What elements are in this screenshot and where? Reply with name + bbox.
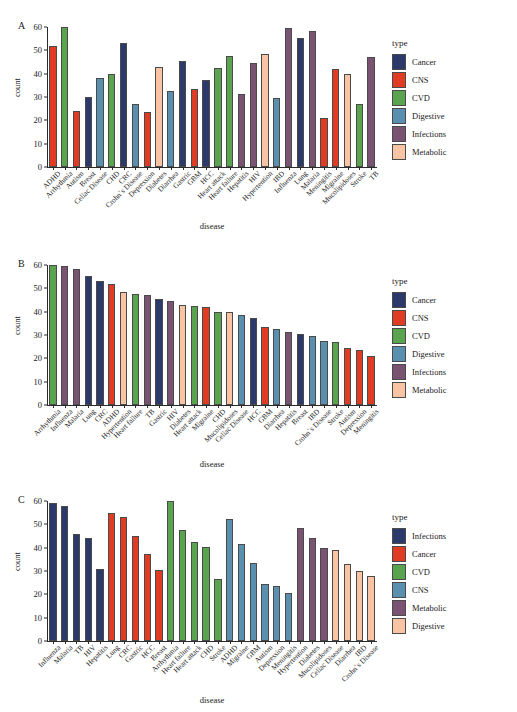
bar bbox=[96, 78, 103, 167]
legend-label: CNS bbox=[412, 75, 429, 85]
legend-swatch bbox=[392, 292, 406, 308]
bar bbox=[285, 332, 292, 406]
legend-swatch bbox=[392, 54, 406, 70]
bar bbox=[167, 501, 174, 641]
legend-label: Cancer bbox=[412, 57, 436, 67]
plot-area-c: 0102030405060 bbox=[47, 501, 377, 641]
bar bbox=[238, 315, 245, 405]
bar bbox=[332, 69, 339, 167]
panel-b: B count 0102030405060 ArrhythmiaInfluenz… bbox=[0, 238, 517, 475]
bar bbox=[120, 292, 127, 405]
bar bbox=[85, 97, 92, 167]
bar bbox=[144, 112, 151, 167]
legend-label: Infections bbox=[412, 129, 446, 139]
bar bbox=[132, 104, 139, 167]
bar bbox=[273, 98, 280, 167]
legend-item: Digestive bbox=[392, 345, 512, 363]
legend-swatch bbox=[392, 328, 406, 344]
legend-item: CNS bbox=[392, 581, 512, 599]
legend-items-b: CancerCNSCVDDigestiveInfectionsMetabolic bbox=[392, 291, 512, 399]
bar bbox=[179, 530, 186, 641]
panel-a: A count 0102030405060 ADHDArrhythmiaAuti… bbox=[0, 0, 517, 237]
bar bbox=[214, 579, 221, 641]
legend-label: Cancer bbox=[412, 295, 436, 305]
x-tick-labels-b: ArrhythmiaInfluenzaMalariaLungCRCADHDHyp… bbox=[47, 407, 377, 459]
x-axis-line-a bbox=[47, 167, 377, 168]
bar bbox=[356, 104, 363, 167]
legend-title-c: type bbox=[392, 512, 512, 522]
bar bbox=[49, 503, 56, 641]
y-axis-label-a: count bbox=[12, 78, 22, 97]
bar bbox=[214, 312, 221, 405]
bar bbox=[108, 284, 115, 405]
bar bbox=[120, 43, 127, 167]
x-axis-line-b bbox=[47, 405, 377, 406]
bar bbox=[250, 318, 257, 406]
bar bbox=[61, 266, 68, 405]
bar bbox=[273, 329, 280, 405]
bar bbox=[191, 89, 198, 167]
bar bbox=[297, 334, 304, 405]
bar bbox=[155, 570, 162, 641]
bar bbox=[309, 336, 316, 405]
legend-swatch bbox=[392, 618, 406, 634]
legend-swatch bbox=[392, 108, 406, 124]
legend-swatch bbox=[392, 546, 406, 562]
bar bbox=[167, 91, 174, 167]
legend-items-c: InfectionsCancerCVDCNSMetabolicDigestive bbox=[392, 527, 512, 635]
legend-item: Cancer bbox=[392, 545, 512, 563]
bar bbox=[179, 61, 186, 167]
legend-item: Digestive bbox=[392, 107, 512, 125]
figure-root: A count 0102030405060 ADHDArrhythmiaAuti… bbox=[0, 0, 517, 712]
bar bbox=[179, 305, 186, 405]
bar bbox=[320, 118, 327, 167]
bar bbox=[320, 341, 327, 405]
legend-label: Metabolic bbox=[412, 147, 446, 157]
legend-label: Infections bbox=[412, 531, 446, 541]
bar bbox=[261, 584, 268, 641]
bar bbox=[202, 547, 209, 642]
bar bbox=[167, 301, 174, 405]
panel-letter-a: A bbox=[18, 20, 26, 31]
legend-item: Cancer bbox=[392, 291, 512, 309]
bar bbox=[226, 56, 233, 167]
legend-c: type InfectionsCancerCVDCNSMetabolicDige… bbox=[392, 512, 512, 635]
legend-swatch bbox=[392, 72, 406, 88]
legend-swatch bbox=[392, 564, 406, 580]
bars-b bbox=[47, 265, 377, 405]
legend-item: CVD bbox=[392, 327, 512, 345]
bar bbox=[285, 593, 292, 641]
bar bbox=[61, 27, 68, 167]
bar bbox=[344, 74, 351, 167]
panel-letter-c: C bbox=[18, 494, 25, 505]
panel-c: C count 0102030405060 InfluenzaMalariaTB… bbox=[0, 474, 517, 711]
y-axis-label-b: count bbox=[12, 316, 22, 335]
bar bbox=[356, 571, 363, 641]
bar bbox=[367, 576, 374, 641]
plot-area-b: 0102030405060 bbox=[47, 265, 377, 405]
bar bbox=[226, 312, 233, 405]
bar bbox=[155, 67, 162, 167]
bar bbox=[238, 94, 245, 168]
legend-label: Cancer bbox=[412, 549, 436, 559]
bar bbox=[61, 506, 68, 641]
bar bbox=[73, 534, 80, 641]
bar bbox=[261, 54, 268, 167]
bar bbox=[297, 38, 304, 168]
bar bbox=[191, 306, 198, 405]
legend-item: Metabolic bbox=[392, 381, 512, 399]
legend-swatch bbox=[392, 582, 406, 598]
legend-label: Metabolic bbox=[412, 385, 446, 395]
legend-items-a: CancerCNSCVDDigestiveInfectionsMetabolic bbox=[392, 53, 512, 161]
legend-label: Metabolic bbox=[412, 603, 446, 613]
bar bbox=[226, 519, 233, 642]
legend-swatch bbox=[392, 144, 406, 160]
bar bbox=[250, 563, 257, 641]
bar bbox=[332, 550, 339, 641]
bar bbox=[297, 528, 304, 641]
legend-item: Metabolic bbox=[392, 599, 512, 617]
bar bbox=[367, 57, 374, 167]
bar bbox=[309, 538, 316, 641]
legend-label: CVD bbox=[412, 331, 430, 341]
bar bbox=[356, 350, 363, 405]
